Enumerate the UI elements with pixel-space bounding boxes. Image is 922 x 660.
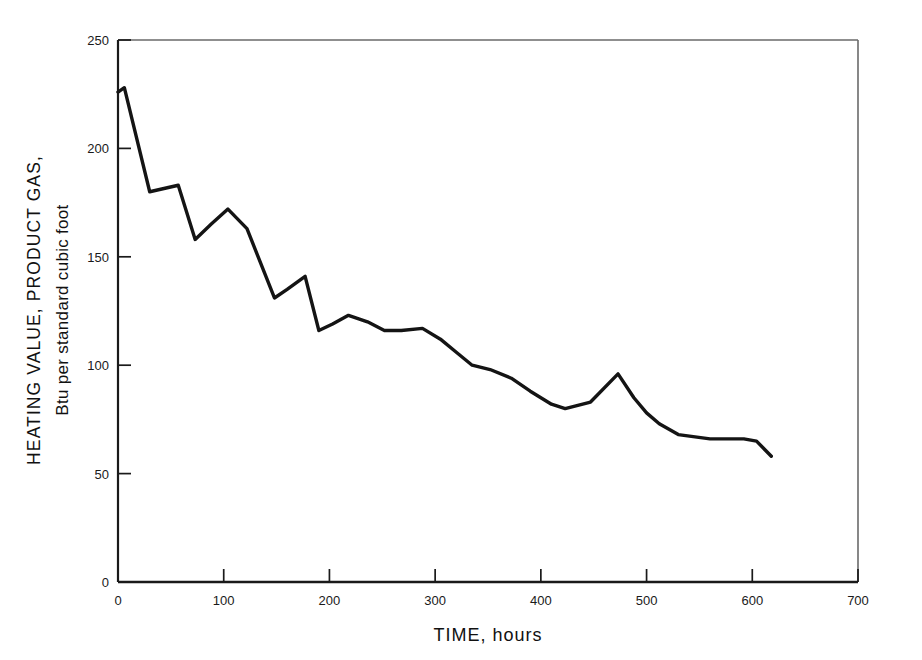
x-axis-ticks: 0100200300400500600700: [114, 569, 868, 608]
x-axis-title: TIME, hours: [433, 625, 542, 645]
x-tick-label: 400: [530, 593, 552, 608]
x-tick-label: 0: [114, 593, 121, 608]
y-axis-ticks: 050100150200250: [87, 33, 131, 590]
y-tick-label: 50: [95, 467, 109, 482]
y-axis-title-line2: Btu per standard cubic foot: [53, 204, 72, 415]
data-series-group: [118, 88, 771, 457]
plot-frame: [118, 40, 858, 582]
data-line: [118, 88, 771, 457]
x-tick-label: 200: [319, 593, 341, 608]
x-tick-label: 100: [213, 593, 235, 608]
y-tick-label: 0: [102, 575, 109, 590]
line-chart: 050100150200250 0100200300400500600700 H…: [0, 0, 922, 660]
y-tick-label: 100: [87, 358, 109, 373]
x-tick-label: 300: [424, 593, 446, 608]
x-tick-label: 600: [741, 593, 763, 608]
x-tick-label: 700: [847, 593, 869, 608]
chart-figure: 050100150200250 0100200300400500600700 H…: [0, 0, 922, 660]
x-tick-label: 500: [636, 593, 658, 608]
y-tick-label: 200: [87, 141, 109, 156]
y-tick-label: 250: [87, 33, 109, 48]
y-axis-title-line1: HEATING VALUE, PRODUCT GAS,: [24, 155, 44, 465]
y-tick-label: 150: [87, 250, 109, 265]
